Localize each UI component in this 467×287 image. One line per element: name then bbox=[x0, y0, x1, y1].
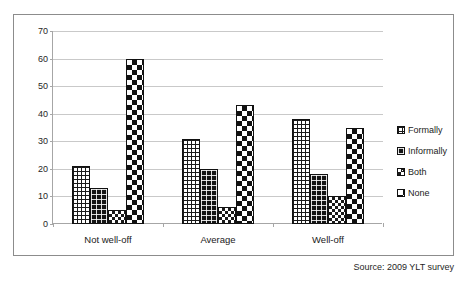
x-axis-tick-mark bbox=[383, 223, 384, 227]
y-axis-tick-label: 20 bbox=[38, 164, 48, 173]
grouped-bar-chart: 010203040506070 Not well-offAverageWell-… bbox=[0, 0, 467, 287]
legend-item-label: None bbox=[408, 188, 430, 198]
legend-swatch-icon bbox=[397, 168, 405, 176]
x-axis-tick-label: Well-off bbox=[312, 235, 344, 245]
x-axis-tick-label: Not well-off bbox=[84, 235, 131, 245]
bar[interactable] bbox=[218, 207, 236, 224]
bar-group bbox=[273, 31, 383, 224]
legend-item[interactable]: Informally bbox=[397, 146, 467, 156]
y-axis-tick-label: 60 bbox=[38, 54, 48, 63]
source-note: Source: 2009 YLT survey bbox=[353, 262, 454, 273]
legend-item[interactable]: Formally bbox=[397, 125, 467, 135]
legend-swatch-icon bbox=[397, 147, 405, 155]
legend-item-label: Both bbox=[408, 167, 427, 177]
legend-item-label: Formally bbox=[408, 125, 443, 135]
bar[interactable] bbox=[108, 210, 126, 224]
x-axis-tick-mark bbox=[273, 223, 274, 227]
bar[interactable] bbox=[346, 128, 364, 225]
bar[interactable] bbox=[90, 188, 108, 224]
chart-legend: FormallyInformallyBothNone bbox=[397, 125, 467, 209]
y-axis-tick-label: 30 bbox=[38, 137, 48, 146]
legend-item-label: Informally bbox=[408, 146, 447, 156]
x-axis-tick-mark bbox=[163, 223, 164, 227]
bar[interactable] bbox=[292, 119, 310, 224]
legend-item[interactable]: None bbox=[397, 188, 467, 198]
bar[interactable] bbox=[126, 59, 144, 224]
x-axis-tick-mark bbox=[53, 223, 54, 227]
x-axis-tick-label: Average bbox=[200, 235, 235, 245]
bar[interactable] bbox=[182, 139, 200, 224]
plot-area: 010203040506070 Not well-offAverageWell-… bbox=[52, 31, 382, 224]
legend-swatch-icon bbox=[397, 189, 405, 197]
bar[interactable] bbox=[310, 174, 328, 224]
bar[interactable] bbox=[72, 166, 90, 224]
y-axis-tick-label: 40 bbox=[38, 109, 48, 118]
bar-group bbox=[53, 31, 163, 224]
y-axis-tick-label: 0 bbox=[43, 220, 48, 229]
bars-layer bbox=[53, 31, 383, 224]
legend-item[interactable]: Both bbox=[397, 167, 467, 177]
y-axis-tick-label: 10 bbox=[38, 192, 48, 201]
y-axis-tick-label: 50 bbox=[38, 82, 48, 91]
bar[interactable] bbox=[328, 196, 346, 224]
bar[interactable] bbox=[200, 169, 218, 224]
chart-frame: 010203040506070 Not well-offAverageWell-… bbox=[13, 14, 454, 256]
bar[interactable] bbox=[236, 105, 254, 224]
bar-group bbox=[163, 31, 273, 224]
legend-swatch-icon bbox=[397, 126, 405, 134]
y-axis-tick-label: 70 bbox=[38, 27, 48, 36]
